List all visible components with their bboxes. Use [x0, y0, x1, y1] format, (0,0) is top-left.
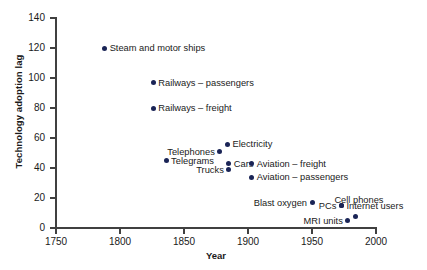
x-axis-tick: [247, 229, 249, 234]
y-axis-tick: [50, 107, 55, 109]
y-axis-tick: [50, 47, 55, 49]
x-axis-tick: [183, 229, 185, 234]
data-point-label: Steam and motor ships: [110, 43, 206, 53]
data-point-label: Railways – freight: [158, 103, 231, 113]
y-axis-tick-label: 120: [5, 43, 45, 53]
data-point: [151, 106, 156, 111]
data-point: [353, 214, 358, 219]
y-axis-tick-label: 100: [5, 73, 45, 83]
y-axis-tick: [50, 17, 55, 19]
x-axis-title: Year: [56, 250, 376, 261]
x-axis-tick-label: 1750: [34, 236, 78, 247]
y-axis-tick-label: 60: [5, 133, 45, 143]
data-point-label: Electricity: [233, 139, 273, 149]
data-point: [225, 142, 230, 147]
y-axis-tick-label: 40: [5, 163, 45, 173]
y-axis-tick: [50, 197, 55, 199]
x-axis-tick: [119, 229, 121, 234]
data-point-label: Aviation – passengers: [257, 172, 348, 182]
data-point-label: Cell phones: [334, 195, 383, 205]
y-axis-tick-label: 80: [5, 103, 45, 113]
data-point: [310, 200, 315, 205]
x-axis-tick-label: 1850: [162, 236, 206, 247]
data-point: [102, 46, 107, 51]
data-point-label: MRI units: [304, 216, 343, 226]
x-axis-tick: [311, 229, 313, 234]
data-point-label: Aviation – freight: [257, 159, 326, 169]
y-axis-tick-label: 0: [5, 223, 45, 233]
y-axis-tick: [50, 167, 55, 169]
x-axis-tick-label: 2000: [354, 236, 398, 247]
y-axis-tick-label: 140: [5, 13, 45, 23]
x-axis-tick-label: 1900: [226, 236, 270, 247]
data-point-label: Railways – passengers: [158, 78, 254, 88]
x-axis-tick-label: 1800: [98, 236, 142, 247]
data-point: [249, 175, 254, 180]
y-axis-tick-label: 20: [5, 193, 45, 203]
data-point-label: Blast oxygen: [254, 198, 307, 208]
x-axis-tick: [55, 229, 57, 234]
technology-adoption-lag-chart: Technology adoption lag Year 02040608010…: [0, 0, 427, 270]
y-axis-tick: [50, 137, 55, 139]
data-point: [164, 158, 169, 163]
x-axis-tick: [375, 229, 377, 234]
y-axis-tick: [50, 77, 55, 79]
data-point-label: Trucks: [196, 165, 224, 175]
data-point: [151, 80, 156, 85]
x-axis-tick-label: 1950: [290, 236, 334, 247]
